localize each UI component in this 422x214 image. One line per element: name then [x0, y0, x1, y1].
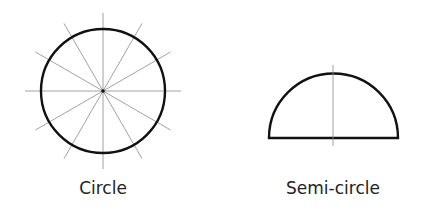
circle-label: Circle: [23, 178, 183, 198]
circle-figure: [25, 13, 181, 169]
semi-circle-figure: [269, 65, 398, 146]
semi-circle-label: Semi-circle: [253, 178, 413, 198]
